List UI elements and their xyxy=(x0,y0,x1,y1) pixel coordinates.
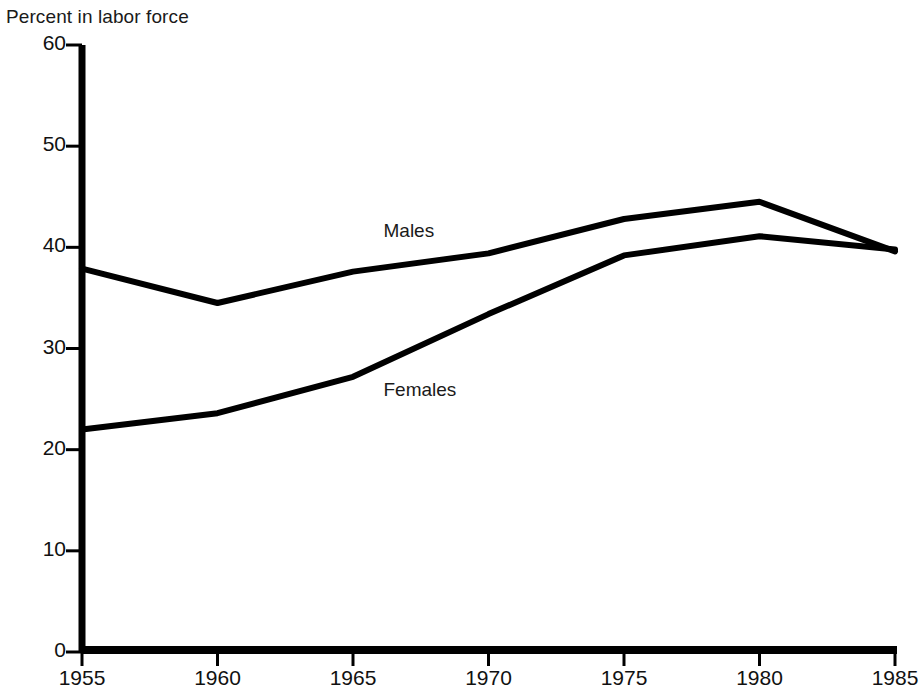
y-tick-label: 60 xyxy=(12,31,66,55)
series-label-males: Males xyxy=(384,220,435,242)
y-tick-label: 10 xyxy=(12,537,66,561)
plot-area xyxy=(0,0,923,693)
tick-marks xyxy=(66,45,895,666)
y-tick-label: 20 xyxy=(12,436,66,460)
x-tick-label: 1970 xyxy=(434,666,544,690)
y-tick-label: 50 xyxy=(12,132,66,156)
y-tick-label: 40 xyxy=(12,233,66,257)
y-tick-label: 30 xyxy=(12,335,66,359)
x-tick-label: 1985 xyxy=(840,666,923,690)
series-label-females: Females xyxy=(384,379,457,401)
x-tick-label: 1960 xyxy=(163,666,273,690)
series-line-males xyxy=(82,202,895,303)
line-chart: Percent in labor force 0102030405060 195… xyxy=(0,0,923,693)
y-tick-label: 0 xyxy=(12,638,66,662)
series-line-females xyxy=(82,236,895,429)
x-tick-label: 1955 xyxy=(27,666,137,690)
x-tick-label: 1975 xyxy=(569,666,679,690)
x-tick-label: 1965 xyxy=(298,666,408,690)
x-tick-label: 1980 xyxy=(705,666,815,690)
